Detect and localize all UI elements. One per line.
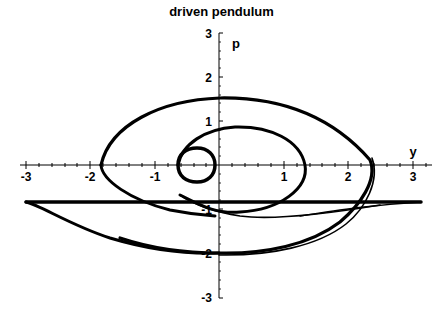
x-axis-label: y xyxy=(409,144,417,159)
y-tick-labels: 3 2 1 -1 -2 -3 xyxy=(201,27,212,305)
x-tick-label: -3 xyxy=(21,170,32,184)
y-tick-label: -3 xyxy=(201,291,212,305)
lower-branch xyxy=(26,202,219,253)
x-tick-label: 2 xyxy=(345,170,352,184)
x-tick-label: 1 xyxy=(281,170,288,184)
y-tick-label: 3 xyxy=(205,27,212,41)
y-tick-label: 2 xyxy=(205,71,212,85)
phase-plot: -3 -2 -1 1 2 3 y 3 2 1 -1 -2 -3 p xyxy=(0,0,443,320)
x-tick-label: -1 xyxy=(150,170,161,184)
x-tick-label: -2 xyxy=(85,170,96,184)
y-axis-label: p xyxy=(232,36,240,51)
large-loop xyxy=(101,98,372,253)
y-tick-label: 1 xyxy=(205,115,212,129)
x-tick-label: 3 xyxy=(410,170,417,184)
